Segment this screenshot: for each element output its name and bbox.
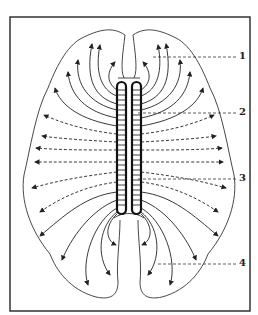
- field-lines: [32, 44, 226, 285]
- label-4: 4: [239, 257, 246, 268]
- central-columns: [117, 82, 141, 214]
- brain-outline: [23, 30, 235, 298]
- label-3: 3: [239, 172, 246, 183]
- label-1: 1: [239, 50, 246, 61]
- label-2: 2: [239, 106, 246, 117]
- frame-border: [10, 17, 250, 311]
- diagram-canvas: [0, 0, 258, 315]
